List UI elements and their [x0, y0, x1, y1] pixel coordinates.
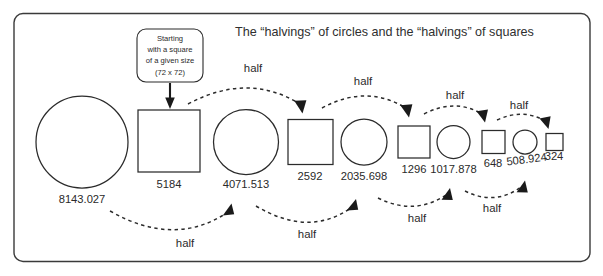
label-circle-3: 2035.698	[341, 170, 388, 182]
halvings-diagram: The “halvings” of circles and the “halvi…	[0, 0, 603, 276]
shape-square-2	[288, 120, 333, 165]
shape-square-3	[398, 126, 430, 158]
top-arrow-3-label: half	[446, 89, 465, 101]
label-circle-1: 8143.027	[59, 193, 106, 205]
callout-line-1: Starting	[157, 34, 183, 43]
label-square-4: 648	[484, 157, 503, 169]
bottom-arrow-1-label: half	[176, 237, 195, 249]
top-arrow-2-label: half	[354, 75, 373, 87]
page-title: The “halvings” of circles and the “halvi…	[235, 25, 534, 39]
shape-circle-2	[214, 110, 279, 175]
top-arrow-4-label: half	[510, 99, 529, 111]
shape-square-5	[546, 134, 563, 151]
shape-circle-5	[513, 130, 537, 154]
bottom-arrow-4-label: half	[483, 202, 502, 214]
label-circle-2: 4071.513	[223, 178, 270, 190]
bottom-arrow-3-label: half	[408, 212, 427, 224]
diagram-page: The “halvings” of circles and the “halvi…	[0, 0, 603, 276]
callout-line-2: with a square	[146, 45, 192, 54]
label-circle-4: 1017.878	[430, 163, 477, 175]
label-square-5: 324	[545, 150, 564, 162]
shape-circle-1	[36, 96, 128, 188]
shape-square-4	[482, 131, 505, 154]
callout-line-3: of a given size	[146, 56, 195, 65]
label-square-3: 1296	[402, 163, 427, 175]
bottom-arrow-2-label: half	[298, 228, 317, 240]
shape-circle-4	[437, 126, 470, 159]
label-square-1: 5184	[157, 178, 182, 190]
shape-square-1	[138, 110, 200, 172]
label-square-2: 2592	[298, 170, 323, 182]
top-arrow-1-label: half	[244, 62, 263, 74]
shape-circle-3	[341, 119, 387, 165]
callout-line-4: (72 x 72)	[155, 68, 185, 77]
